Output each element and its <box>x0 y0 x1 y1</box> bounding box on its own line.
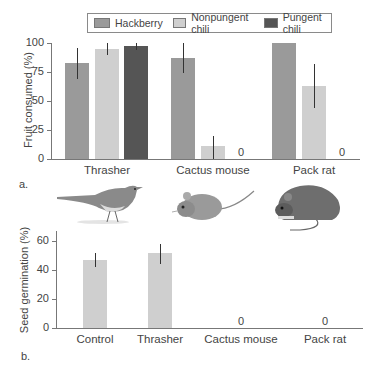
zero-value-label: 0 <box>234 146 248 158</box>
bottom-ytick: 20 <box>25 292 49 304</box>
legend-label: Pungent chili <box>283 11 331 35</box>
legend-item-nonpungent: Nonpungent chili <box>173 11 255 35</box>
pack-rat-icon <box>270 180 350 232</box>
zero-value-label: 0 <box>318 315 332 327</box>
zero-value-label: 0 <box>234 315 248 327</box>
top-x-category: Pack rat <box>264 164 364 176</box>
bottom-x-axis-line <box>56 328 363 329</box>
legend-item-pungent: Pungent chili <box>264 11 331 35</box>
error-bar <box>107 43 108 55</box>
top-x-category: Thrasher <box>57 164 157 176</box>
error-bar <box>213 136 214 159</box>
top-ytick: 100 <box>20 36 44 48</box>
legend-label: Nonpungent chili <box>191 11 254 35</box>
chart-legend: Hackberry Nonpungent chili Pungent chili <box>87 13 332 33</box>
bottom-x-category: Pack rat <box>275 333 375 345</box>
bottom-ytick: 0 <box>25 321 49 333</box>
error-bar <box>77 48 78 79</box>
bottom-y-axis-line <box>56 231 57 329</box>
legend-swatch-pungent <box>264 18 277 28</box>
thrasher-bird-icon <box>55 182 150 227</box>
cactus-mouse-icon <box>172 185 262 225</box>
bar-control <box>83 260 107 328</box>
top-x-axis-line <box>51 159 360 160</box>
error-bar <box>160 244 161 264</box>
bar-thrasher <box>148 253 172 328</box>
panel-label-a: a. <box>19 178 28 190</box>
top-ytick: 25 <box>20 123 44 135</box>
bar-thrasher-nonpungent <box>95 49 119 159</box>
panel-label-b: b. <box>21 350 30 362</box>
top-x-category: Cactus mouse <box>163 164 263 176</box>
bar-pack-rat-hackberry <box>272 43 296 159</box>
bottom-ytick: 40 <box>25 263 49 275</box>
top-ytick: 50 <box>20 94 44 106</box>
top-ytick: 75 <box>20 65 44 77</box>
legend-swatch-hackberry <box>94 18 110 28</box>
bar-cactus-mouse-hackberry <box>171 58 195 159</box>
error-bar <box>314 64 315 108</box>
bottom-ytick: 60 <box>25 234 49 246</box>
legend-item-hackberry: Hackberry <box>94 17 163 29</box>
error-bar <box>183 43 184 73</box>
legend-label: Hackberry <box>115 17 163 29</box>
error-bar <box>136 43 137 50</box>
top-y-axis-line <box>51 43 52 160</box>
zero-value-label: 0 <box>335 146 349 158</box>
top-ytick: 0 <box>20 152 44 164</box>
error-bar <box>95 253 96 267</box>
legend-swatch-nonpungent <box>173 18 186 28</box>
bar-thrasher-pungent <box>124 46 148 159</box>
